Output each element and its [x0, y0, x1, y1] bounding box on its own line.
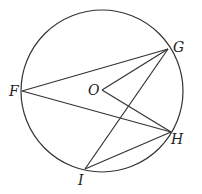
label-O: O — [88, 82, 100, 98]
label-G: G — [173, 39, 184, 55]
label-H: H — [170, 131, 184, 147]
label-I: I — [77, 172, 84, 188]
circle — [21, 10, 183, 172]
segment-OG — [102, 49, 168, 90]
label-F: F — [8, 83, 20, 99]
segment-OH — [102, 90, 171, 132]
geometry-diagram: F G O H I — [0, 0, 202, 194]
